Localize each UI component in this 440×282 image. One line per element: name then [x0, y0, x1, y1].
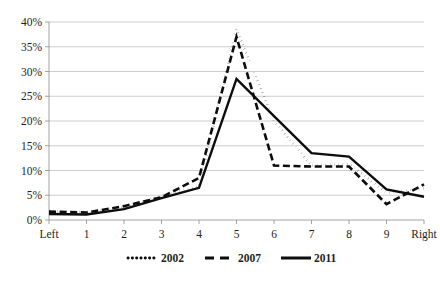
line-chart: 0%5%10%15%20%25%30%35%40% Left123456789R… — [0, 0, 440, 282]
y-axis-tick-label: 20% — [21, 115, 43, 127]
y-axis-tick-label: 40% — [21, 16, 43, 28]
x-axis-tick-label: 4 — [196, 228, 202, 240]
x-axis-tick-label: 6 — [271, 228, 277, 240]
x-axis-tick-label: Right — [411, 228, 437, 241]
y-axis-tick-label: 30% — [21, 66, 43, 78]
y-axis-tick-label: 5% — [27, 189, 43, 201]
legend-label-2007: 2007 — [238, 252, 261, 264]
y-axis-tick-label: 10% — [21, 165, 43, 177]
x-axis-tick-label: 1 — [84, 228, 90, 240]
y-axis-tick-label: 25% — [21, 90, 43, 102]
legend-label-2002: 2002 — [161, 252, 184, 264]
chart-background — [0, 0, 440, 282]
x-axis-tick-label: 9 — [384, 228, 390, 240]
x-axis-tick-label: 3 — [159, 228, 165, 240]
x-axis-tick-label: Left — [39, 228, 59, 240]
y-axis-tick-label: 35% — [21, 41, 43, 53]
legend-label-2011: 2011 — [314, 252, 337, 264]
x-axis-tick-label: 2 — [121, 228, 127, 240]
x-axis-tick-label: 5 — [234, 228, 240, 240]
chart-canvas: 0%5%10%15%20%25%30%35%40% Left123456789R… — [0, 0, 440, 282]
y-axis-tick-label: 0% — [27, 214, 43, 226]
x-axis-tick-label: 7 — [309, 228, 315, 240]
x-axis-tick-label: 8 — [346, 228, 352, 240]
y-axis-tick-label: 15% — [21, 140, 43, 152]
